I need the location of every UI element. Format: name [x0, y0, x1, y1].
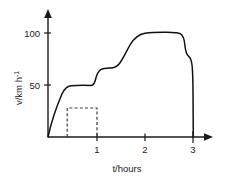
velocity-time-graph-figure: 50 100 1 2 3 v/km h-1 t/hours [0, 0, 231, 182]
x-axis [48, 133, 213, 140]
x-axis-arrow-icon [204, 133, 213, 140]
velocity-curve [48, 32, 193, 137]
shaded-area-box [67, 108, 97, 137]
x-axis-title: t/hours [112, 163, 141, 174]
x-tick-label-3: 3 [190, 144, 195, 155]
y-axis-title-exponent: -1 [13, 71, 20, 77]
x-tick-label-2: 2 [142, 144, 147, 155]
y-axis-arrow-icon [44, 9, 52, 18]
y-tick-label-100: 100 [24, 28, 40, 39]
y-axis-title: v/km h-1 [13, 71, 24, 105]
x-tick-label-1: 1 [94, 144, 99, 155]
svg-text:v/km h-1: v/km h-1 [13, 71, 24, 105]
plot-canvas: 50 100 1 2 3 v/km h-1 t/hours [0, 0, 231, 182]
y-axis-title-main: v/km h [13, 77, 24, 105]
y-tick-label-50: 50 [29, 80, 40, 91]
y-axis [44, 9, 52, 137]
